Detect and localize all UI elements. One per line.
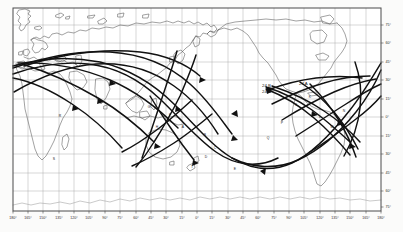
latitude-tick-label: 15° <box>386 97 392 101</box>
latitude-tick-label: 30° <box>386 78 392 82</box>
longitude-tick-label: 180° <box>9 216 17 220</box>
longitude-tick-label: 15° <box>209 216 215 220</box>
longitude-tick-label: 150° <box>346 216 354 220</box>
latitude-tick-label: 45° <box>386 60 392 64</box>
track-point-label: M <box>331 125 334 129</box>
latitude-tick-label: 15° <box>386 134 392 138</box>
longitude-tick-label: 75° <box>117 216 123 220</box>
longitude-tick-label: 165° <box>362 216 370 220</box>
longitude-tick-label: 120° <box>70 216 78 220</box>
latitude-tick-label: 30° <box>386 152 392 156</box>
longitude-tick-label: 135° <box>55 216 63 220</box>
latitude-tick-label: 0° <box>386 115 390 119</box>
longitude-tick-label: 105° <box>300 216 308 220</box>
longitude-tick-label: 165° <box>24 216 32 220</box>
longitude-tick-label: 180° <box>377 216 385 220</box>
longitude-tick-label: 45° <box>240 216 246 220</box>
world-map-svg: 24 B 24 C 24 A ABCDEFGHJKLMNPQRST 180°16… <box>0 0 403 232</box>
longitude-tick-label: 15° <box>179 216 185 220</box>
track-point-label: J <box>295 103 297 107</box>
track-point-label: G <box>148 105 151 109</box>
longitude-tick-label: 150° <box>39 216 47 220</box>
track-point-label: Q <box>267 136 270 140</box>
longitude-tick-label: 60° <box>133 216 139 220</box>
longitude-tick-label: 90° <box>102 216 108 220</box>
latitude-tick-label: 75° <box>386 205 392 209</box>
track-label-24a: 24 A <box>299 81 308 86</box>
track-label-24c: 24 C <box>262 89 271 94</box>
longitude-tick-label: 30° <box>225 216 231 220</box>
ground-track-figure: 24 B 24 C 24 A ABCDEFGHJKLMNPQRST 180°16… <box>0 0 403 232</box>
longitude-tick-label: 120° <box>316 216 324 220</box>
track-label-24b: 24 B <box>262 83 271 88</box>
longitude-tick-label: 0° <box>195 216 199 220</box>
latitude-tick-label: 45° <box>386 171 392 175</box>
latitude-tick-label: 60° <box>386 189 392 193</box>
longitude-tick-label: 75° <box>271 216 277 220</box>
longitude-tick-label: 30° <box>163 216 169 220</box>
longitude-tick-label: 60° <box>255 216 261 220</box>
track-point-label: L <box>319 115 321 119</box>
longitude-tick-label: 45° <box>148 216 154 220</box>
track-point-label: T <box>191 165 193 169</box>
longitude-tick-label: 105° <box>85 216 93 220</box>
latitude-tick-label: 75° <box>386 23 392 27</box>
longitude-tick-label: 135° <box>331 216 339 220</box>
track-point-label: F <box>169 113 171 117</box>
map-plot-area: 24 B 24 C 24 A ABCDEFGHJKLMNPQRST <box>13 8 381 211</box>
latitude-tick-label: 60° <box>386 41 392 45</box>
longitude-tick-label: 90° <box>286 216 292 220</box>
